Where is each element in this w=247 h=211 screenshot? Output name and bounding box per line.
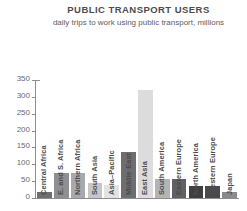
- bar-category-label: Eastern Europe: [174, 139, 183, 195]
- bar[interactable]: E. and S. Africa: [54, 173, 69, 198]
- chart-subtitle: daily trips to work using public transpo…: [30, 17, 247, 28]
- plot-area: Central AfricaE. and S. AfricaNorthern A…: [36, 80, 238, 198]
- bar-category-label: South Asia: [90, 156, 99, 195]
- y-axis-tick-label: 250: [17, 108, 30, 117]
- y-axis-tick-mark: [32, 198, 36, 199]
- page-title: PUBLIC TRANSPORT USERS: [30, 4, 247, 16]
- y-axis-tick-label: 0: [26, 192, 30, 201]
- y-axis-tick-label: 300: [17, 91, 30, 100]
- y-axis-tick-mark: [32, 97, 36, 98]
- bar[interactable]: Middle East: [121, 152, 136, 198]
- y-axis-tick-mark: [32, 114, 36, 115]
- y-axis-tick-label: 200: [17, 125, 30, 134]
- bar-category-label: East Asia: [140, 161, 149, 195]
- bar-category-label: Central Africa: [39, 145, 48, 195]
- bar-category-label: Middle East: [124, 153, 133, 195]
- bar[interactable]: Northern Africa: [71, 173, 86, 198]
- bar[interactable]: Central Africa: [37, 192, 52, 198]
- y-axis-tick-mark: [32, 80, 36, 81]
- bar[interactable]: Asia–Pacific: [104, 185, 119, 198]
- bar-category-label: Japan: [225, 173, 234, 195]
- bar-category-label: North America: [191, 143, 200, 195]
- bar[interactable]: North America: [189, 186, 204, 198]
- x-axis-line: [36, 198, 239, 199]
- bar[interactable]: Eastern Europe: [172, 179, 187, 198]
- chart-container: PUBLIC TRANSPORT USERS daily trips to wo…: [0, 0, 247, 211]
- bar[interactable]: South America: [155, 179, 170, 198]
- bar[interactable]: East Asia: [138, 90, 153, 198]
- y-axis-tick-mark: [32, 164, 36, 165]
- bar-category-label: E. and S. Africa: [56, 139, 65, 195]
- y-axis-tick-label: 150: [17, 141, 30, 150]
- y-axis-tick-label: 50: [21, 175, 30, 184]
- bar[interactable]: Western Europe: [205, 186, 220, 198]
- bar-category-label: Northern Africa: [73, 140, 82, 195]
- bar[interactable]: Japan: [222, 192, 237, 198]
- bar[interactable]: South Asia: [88, 183, 103, 198]
- y-axis-tick-label: 350: [17, 74, 30, 83]
- y-axis-tick-mark: [32, 147, 36, 148]
- bar-category-label: Asia–Pacific: [107, 150, 116, 195]
- y-axis-tick-mark: [32, 131, 36, 132]
- y-axis-tick-label: 100: [17, 158, 30, 167]
- bar-category-label: Western Europe: [208, 137, 217, 195]
- bar-category-label: South America: [157, 142, 166, 195]
- y-axis-tick-mark: [32, 181, 36, 182]
- chart-title-block: PUBLIC TRANSPORT USERS daily trips to wo…: [0, 4, 247, 28]
